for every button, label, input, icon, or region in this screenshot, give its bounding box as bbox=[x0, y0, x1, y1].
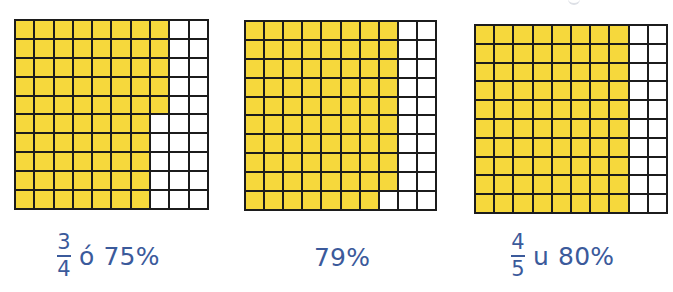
grid-cell-filled bbox=[246, 116, 263, 133]
grid-cell-filled bbox=[132, 172, 149, 189]
grid-cell-filled bbox=[246, 135, 263, 152]
grid-cell-filled bbox=[476, 176, 493, 193]
grid-cell-empty bbox=[418, 192, 435, 209]
grid-cell-filled bbox=[495, 101, 512, 118]
grid-cell-filled bbox=[132, 115, 149, 132]
grid-cell-filled bbox=[93, 134, 110, 151]
cropped-text-fragment bbox=[568, 0, 580, 5]
grid-cell-filled bbox=[303, 192, 320, 209]
grid-cell-filled bbox=[534, 158, 551, 175]
grid-cell-filled bbox=[151, 40, 168, 57]
grid-cell-filled bbox=[74, 21, 91, 38]
grid-cell-filled bbox=[514, 195, 531, 212]
grid-cell-filled bbox=[476, 158, 493, 175]
grid-cell-filled bbox=[591, 120, 608, 137]
grid-cell-filled bbox=[303, 98, 320, 115]
grid-cell-filled bbox=[16, 21, 33, 38]
grid-cell-filled bbox=[322, 98, 339, 115]
grid-cell-filled bbox=[284, 98, 301, 115]
grid-cell-filled bbox=[322, 22, 339, 39]
grid-cell-filled bbox=[610, 45, 627, 62]
grid-cell-filled bbox=[591, 176, 608, 193]
grid-cell-filled bbox=[610, 158, 627, 175]
grid-cell-empty bbox=[649, 195, 666, 212]
grid-cell-filled bbox=[495, 26, 512, 43]
grid-cell-filled bbox=[132, 153, 149, 170]
grid-cell-filled bbox=[284, 192, 301, 209]
grid-cell-filled bbox=[35, 115, 52, 132]
grid-cell-filled bbox=[74, 40, 91, 57]
grid-cell-filled bbox=[265, 173, 282, 190]
grid-cell-empty bbox=[399, 79, 416, 96]
grid-cell-filled bbox=[591, 195, 608, 212]
grid-cell-filled bbox=[265, 116, 282, 133]
grid-cell-filled bbox=[572, 120, 589, 137]
grid-cell-filled bbox=[553, 101, 570, 118]
grid-cell-filled bbox=[361, 41, 378, 58]
grid-cell-filled bbox=[284, 135, 301, 152]
grid-cell-filled bbox=[361, 79, 378, 96]
grid-cell-filled bbox=[534, 64, 551, 81]
grid-cell-filled bbox=[132, 97, 149, 114]
grid-cell-filled bbox=[534, 139, 551, 156]
grid-cell-filled bbox=[380, 22, 397, 39]
grid-cell-filled bbox=[284, 22, 301, 39]
grid-cell-empty bbox=[190, 153, 207, 170]
grid-cell-filled bbox=[55, 97, 72, 114]
grid-cell-empty bbox=[190, 21, 207, 38]
grid-cell-filled bbox=[495, 82, 512, 99]
grid-cell-empty bbox=[630, 158, 647, 175]
fraction-four-fifths: 4 5 bbox=[511, 232, 525, 280]
grid-cell-filled bbox=[361, 173, 378, 190]
grid-cell-filled bbox=[553, 64, 570, 81]
grid-cell-empty bbox=[630, 45, 647, 62]
grid-cell-filled bbox=[35, 191, 52, 208]
grid-cell-filled bbox=[495, 45, 512, 62]
grid-cell-filled bbox=[112, 21, 129, 38]
grid-cell-filled bbox=[322, 116, 339, 133]
grid-cell-filled bbox=[265, 98, 282, 115]
grid-cell-filled bbox=[16, 59, 33, 76]
grid-cell-empty bbox=[649, 26, 666, 43]
grid-cell-filled bbox=[380, 135, 397, 152]
grid-cell-empty bbox=[418, 22, 435, 39]
grid-cell-filled bbox=[55, 40, 72, 57]
grid-cell-filled bbox=[591, 64, 608, 81]
grid-cell-empty bbox=[170, 21, 187, 38]
grid-cell-filled bbox=[35, 153, 52, 170]
grid-cell-filled bbox=[265, 41, 282, 58]
grid-cell-empty bbox=[649, 176, 666, 193]
grid-cell-filled bbox=[55, 21, 72, 38]
grid-cell-empty bbox=[399, 98, 416, 115]
percent-value: 79% bbox=[314, 243, 370, 272]
grid-cell-filled bbox=[74, 97, 91, 114]
grid-cell-filled bbox=[303, 79, 320, 96]
grid-cell-filled bbox=[610, 139, 627, 156]
grid-cell-filled bbox=[553, 45, 570, 62]
grid-cell-filled bbox=[534, 101, 551, 118]
grid-cell-empty bbox=[630, 120, 647, 137]
grid-cell-filled bbox=[246, 22, 263, 39]
grid-cell-filled bbox=[322, 135, 339, 152]
grid-cell-filled bbox=[572, 82, 589, 99]
grid-cell-empty bbox=[190, 78, 207, 95]
grid-cell-filled bbox=[303, 173, 320, 190]
grid-cell-empty bbox=[190, 191, 207, 208]
grid-cell-empty bbox=[649, 82, 666, 99]
grid-cell-empty bbox=[630, 176, 647, 193]
grid-cell-filled bbox=[112, 59, 129, 76]
grid-cell-filled bbox=[361, 60, 378, 77]
grid-cell-empty bbox=[418, 116, 435, 133]
grid-cell-filled bbox=[553, 26, 570, 43]
grid-cell-filled bbox=[361, 154, 378, 171]
percent-value: 75% bbox=[104, 242, 160, 271]
grid-cell-filled bbox=[55, 59, 72, 76]
grid-cell-filled bbox=[534, 176, 551, 193]
grid-cell-filled bbox=[322, 173, 339, 190]
grid-cell-filled bbox=[55, 134, 72, 151]
grid-cell-filled bbox=[591, 45, 608, 62]
grid-cell-filled bbox=[93, 153, 110, 170]
grid-cell-filled bbox=[476, 64, 493, 81]
grid-cell-filled bbox=[16, 115, 33, 132]
grid-cell-filled bbox=[284, 79, 301, 96]
